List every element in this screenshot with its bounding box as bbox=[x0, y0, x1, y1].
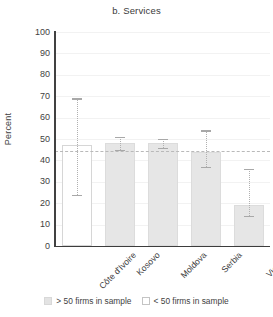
y-tick-label-10: 10 bbox=[20, 220, 50, 229]
error-bar-4 bbox=[249, 169, 250, 216]
legend-item-1[interactable]: < 50 firms in sample bbox=[142, 296, 229, 306]
y-tick-label-80: 80 bbox=[20, 70, 50, 79]
error-cap-lower-0 bbox=[72, 195, 82, 196]
services-bar-chart: b. Services Percent 01020304050607080901… bbox=[0, 0, 273, 317]
legend-label-0: > 50 firms in sample bbox=[56, 296, 131, 306]
y-tick-label-40: 40 bbox=[20, 156, 50, 165]
legend-swatch-hollow bbox=[142, 297, 150, 305]
y-tick-label-100: 100 bbox=[20, 28, 50, 37]
error-cap-upper-0 bbox=[72, 98, 82, 99]
reference-line bbox=[55, 151, 270, 152]
chart-legend: > 50 firms in sample< 50 firms in sample bbox=[0, 296, 273, 306]
gridline-80 bbox=[55, 75, 270, 76]
x-tick-label-1: Kosovo bbox=[134, 250, 161, 277]
y-tick-label-20: 20 bbox=[20, 199, 50, 208]
legend-item-0[interactable]: > 50 firms in sample bbox=[44, 296, 131, 306]
error-cap-lower-3 bbox=[201, 167, 211, 168]
bar-moldova[interactable] bbox=[148, 143, 178, 246]
error-bar-3 bbox=[206, 130, 207, 166]
error-cap-upper-4 bbox=[244, 169, 254, 170]
y-tick-label-50: 50 bbox=[20, 135, 50, 144]
y-axis-line bbox=[54, 31, 56, 247]
error-cap-upper-3 bbox=[201, 130, 211, 131]
x-tick-label-4: Vietnam bbox=[264, 250, 273, 279]
gridline-100 bbox=[55, 32, 270, 33]
x-tick-label-3: Serbia bbox=[219, 250, 244, 275]
x-tick-label-0: Côte d'Ivoire bbox=[97, 250, 138, 291]
error-cap-lower-2 bbox=[158, 148, 168, 149]
gridline-70 bbox=[55, 96, 270, 97]
x-tick-label-2: Moldova bbox=[178, 250, 208, 280]
gridline-60 bbox=[55, 118, 270, 119]
legend-swatch-filled bbox=[44, 297, 52, 305]
y-tick-label-0: 0 bbox=[20, 242, 50, 251]
plot-area bbox=[55, 32, 270, 246]
error-cap-upper-2 bbox=[158, 139, 168, 140]
error-cap-upper-1 bbox=[115, 137, 125, 138]
chart-title: b. Services bbox=[0, 5, 273, 16]
error-bar-0 bbox=[77, 98, 78, 194]
legend-label-1: < 50 firms in sample bbox=[154, 296, 229, 306]
x-axis-line bbox=[54, 246, 270, 248]
y-tick-label-60: 60 bbox=[20, 113, 50, 122]
y-axis-label: Percent bbox=[3, 99, 13, 159]
y-tick-label-90: 90 bbox=[20, 49, 50, 58]
y-tick-label-30: 30 bbox=[20, 177, 50, 186]
error-bar-1 bbox=[120, 137, 121, 150]
error-cap-lower-4 bbox=[244, 216, 254, 217]
y-tick-label-70: 70 bbox=[20, 92, 50, 101]
bar-kosovo[interactable] bbox=[105, 143, 135, 246]
y-axis-tick-labels: 0102030405060708090100 bbox=[18, 32, 50, 246]
gridline-90 bbox=[55, 53, 270, 54]
